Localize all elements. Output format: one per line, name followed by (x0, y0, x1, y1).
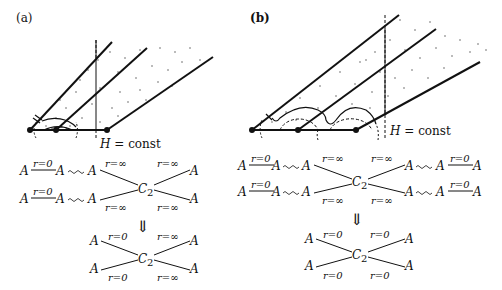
svg-text:A: A (472, 159, 482, 173)
svg-text:2: 2 (361, 180, 367, 191)
svg-text:C: C (352, 175, 361, 189)
svg-text:A: A (271, 159, 281, 173)
svg-text:A: A (87, 164, 97, 178)
svg-text:A: A (304, 232, 314, 246)
svg-text:r=∞: r=∞ (322, 153, 344, 164)
panel-b-top-graph: A r=0 A A r=∞ r=∞ A A r=0 A A r=0 A A r=… (237, 153, 482, 206)
panel-a-top-graph: A r=0 A A r=∞ r=∞ A A r=0 A A r=∞ r=∞ A … (19, 158, 199, 213)
svg-text:r=∞: r=∞ (105, 202, 127, 213)
panel-b-h-const: H = const (389, 124, 451, 138)
svg-text:r=0: r=0 (323, 229, 343, 240)
svg-text:A: A (435, 185, 445, 199)
svg-text:A: A (189, 234, 199, 248)
svg-text:A: A (55, 164, 65, 178)
svg-text:2: 2 (361, 253, 367, 264)
svg-text:A: A (435, 159, 445, 173)
svg-text:A: A (87, 192, 97, 206)
panel-b-rays (252, 15, 480, 130)
svg-text:r=∞: r=∞ (157, 231, 179, 242)
panel-b-label: (b) (250, 11, 270, 25)
svg-text:A: A (237, 159, 247, 173)
panel-a-arcs (33, 115, 77, 138)
svg-text:r=0: r=0 (33, 186, 53, 197)
svg-text:r=0: r=0 (251, 153, 271, 164)
svg-text:A: A (271, 185, 281, 199)
svg-text:r=0: r=0 (251, 179, 271, 190)
svg-text:r=0: r=0 (323, 270, 343, 281)
svg-text:A: A (237, 185, 247, 199)
svg-text:A: A (304, 259, 314, 273)
svg-text:A: A (301, 159, 311, 173)
panel-a-implies-arrow: ⇓ (136, 217, 149, 236)
svg-text:A: A (89, 234, 99, 248)
panel-b-implies-arrow: ⇓ (350, 210, 363, 229)
svg-text:2: 2 (147, 257, 153, 268)
svg-text:C: C (352, 248, 361, 262)
svg-text:A: A (404, 232, 414, 246)
svg-text:r=∞: r=∞ (371, 195, 393, 206)
panel-a-rays (30, 42, 213, 130)
svg-text:r=∞: r=∞ (322, 195, 344, 206)
panel-b-result-graph: A r=0 r=0 A C 2 A r=0 r=0 A (304, 229, 414, 281)
svg-text:C: C (138, 252, 147, 266)
svg-text:A: A (301, 185, 311, 199)
panel-b: (b) (237, 11, 487, 281)
figure: (a) (0, 0, 502, 290)
svg-text:r=0: r=0 (450, 153, 470, 164)
svg-text:A: A (89, 262, 99, 276)
svg-text:2: 2 (147, 187, 153, 198)
svg-text:r=0: r=0 (370, 229, 390, 240)
svg-text:A: A (189, 262, 199, 276)
svg-text:A: A (189, 192, 199, 206)
svg-text:A: A (404, 185, 414, 199)
panel-a-stipple (45, 47, 200, 126)
svg-text:r=∞: r=∞ (157, 272, 179, 283)
svg-text:A: A (404, 159, 414, 173)
panel-a-result-graph: A r=0 r=∞ A C 2 A r=0 r=∞ A (89, 231, 199, 283)
svg-text:r=0: r=0 (108, 231, 128, 242)
svg-text:r=∞: r=∞ (371, 153, 393, 164)
panel-a: (a) (16, 11, 213, 283)
svg-text:A: A (472, 185, 482, 199)
svg-text:A: A (55, 192, 65, 206)
panel-b-arcs (260, 107, 378, 140)
svg-text:r=∞: r=∞ (157, 158, 179, 169)
svg-text:r=0: r=0 (370, 270, 390, 281)
svg-text:A: A (404, 259, 414, 273)
svg-text:r=∞: r=∞ (105, 158, 127, 169)
panel-a-label: (a) (16, 11, 33, 25)
svg-text:A: A (19, 164, 29, 178)
panel-a-h-const: H = const (99, 137, 161, 151)
svg-text:A: A (19, 192, 29, 206)
svg-text:r=0: r=0 (108, 272, 128, 283)
svg-text:r=0: r=0 (33, 158, 53, 169)
svg-text:C: C (138, 182, 147, 196)
svg-text:r=∞: r=∞ (157, 202, 179, 213)
svg-text:A: A (189, 164, 199, 178)
svg-text:r=0: r=0 (450, 179, 470, 190)
